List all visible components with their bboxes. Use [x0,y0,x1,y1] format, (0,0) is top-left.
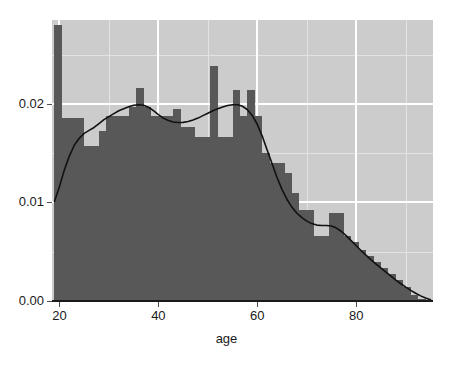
y-axis-tick [47,104,52,105]
x-axis-tick-label: 20 [39,308,79,323]
x-axis-title: age [0,331,453,346]
x-axis-tick [257,302,258,307]
x-axis-tick-label: 80 [336,308,376,323]
x-axis-tick [356,302,357,307]
density-curve [52,20,433,301]
y-axis-tick-label: 0.02 [2,96,44,111]
histogram-figure: 20406080 0.000.010.02 age [0,0,453,369]
y-axis-tick [47,202,52,203]
y-axis-tick-label: 0.00 [2,293,44,308]
x-axis-tick [158,302,159,307]
y-axis-tick-label: 0.01 [2,194,44,209]
x-axis-tick-label: 60 [237,308,277,323]
x-axis-line [52,300,433,302]
plot-panel [52,20,433,301]
y-axis-tick [47,301,52,302]
x-axis-tick [59,302,60,307]
x-axis-tick-label: 40 [138,308,178,323]
density-curve-path [54,105,430,300]
